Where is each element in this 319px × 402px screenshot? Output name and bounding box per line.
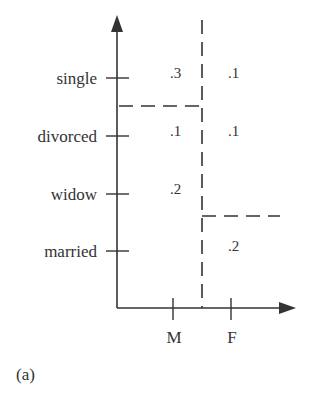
partition-lines: [119, 20, 280, 308]
cell-married-f: .2: [228, 238, 239, 254]
x-ticks: [173, 298, 231, 320]
y-label-single: single: [56, 69, 97, 88]
x-label-f: F: [227, 328, 236, 347]
cell-widow-m: .2: [170, 181, 181, 197]
y-label-widow: widow: [51, 185, 98, 204]
axes: [117, 28, 283, 308]
cell-single-m: .3: [170, 65, 181, 81]
x-label-m: M: [166, 328, 181, 347]
cell-divorced-f: .1: [228, 123, 239, 139]
y-label-divorced: divorced: [38, 127, 98, 146]
y-axis-arrow-icon: [111, 15, 123, 32]
panel-label: (a): [16, 365, 35, 384]
x-axis-arrow-icon: [279, 302, 296, 314]
y-label-married: married: [44, 242, 97, 261]
cell-divorced-m: .1: [170, 123, 181, 139]
cell-single-f: .1: [228, 65, 239, 81]
contingency-diagram: single divorced widow married M F .3 .1 …: [0, 0, 319, 402]
